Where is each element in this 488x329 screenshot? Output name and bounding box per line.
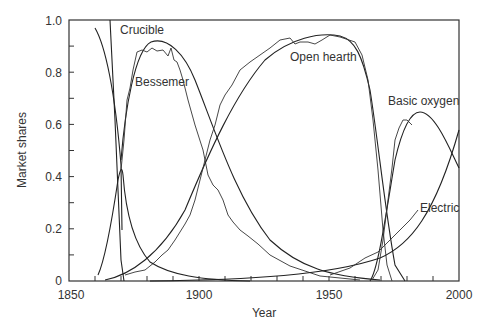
y-label-0.8: 0.8 <box>45 66 62 80</box>
label-crucible: Crucible <box>120 23 164 37</box>
electric-fitted-curve <box>150 130 459 281</box>
basic-oxygen-fitted-curve <box>370 112 459 281</box>
curves <box>95 20 459 281</box>
x-label-2000: 2000 <box>446 288 473 302</box>
x-axis-labels: 1850 1900 1950 2000 <box>58 288 473 302</box>
plot-frame <box>69 20 459 281</box>
y-axis-title: Market shares <box>15 112 29 188</box>
y-axis-ticks <box>69 46 74 255</box>
market-share-chart: 0 0.2 0.4 0.6 0.8 1.0 1850 1900 1950 200… <box>0 0 488 329</box>
x-axis-title: Year <box>252 306 276 320</box>
x-label-1950: 1950 <box>316 288 343 302</box>
y-label-0: 0 <box>55 274 62 288</box>
y-axis-labels: 0 0.2 0.4 0.6 0.8 1.0 <box>45 14 62 288</box>
label-electric: Electric <box>420 201 459 215</box>
label-basic-oxygen: Basic oxygen <box>388 94 459 108</box>
y-label-0.4: 0.4 <box>45 170 62 184</box>
electric-data-curve <box>330 210 418 275</box>
y-label-0.6: 0.6 <box>45 118 62 132</box>
label-bessemer: Bessemer <box>135 75 189 89</box>
x-label-1900: 1900 <box>186 288 213 302</box>
x-label-1850: 1850 <box>58 288 85 302</box>
open-hearth-fitted-curve <box>105 35 405 281</box>
label-open-hearth: Open hearth <box>290 50 357 64</box>
y-label-0.2: 0.2 <box>45 222 62 236</box>
y-label-1.0: 1.0 <box>45 14 62 28</box>
